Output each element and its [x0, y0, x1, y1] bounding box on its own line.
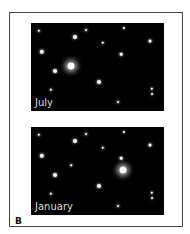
star-icon	[50, 193, 52, 195]
star-icon	[149, 144, 152, 147]
star-icon	[151, 197, 153, 199]
star-icon	[151, 192, 153, 194]
star-icon	[151, 88, 153, 90]
star-icon	[120, 167, 127, 174]
star-icon	[40, 154, 44, 158]
star-icon	[53, 69, 57, 73]
star-icon	[120, 53, 123, 56]
star-icon	[120, 157, 123, 160]
panel-label: July	[35, 98, 53, 108]
star-icon	[73, 35, 77, 39]
star-icon	[102, 42, 104, 44]
star-field-panel-january: January	[31, 127, 164, 215]
star-icon	[53, 173, 57, 177]
figure-letter: B	[15, 216, 22, 226]
star-icon	[97, 184, 101, 188]
star-icon	[117, 101, 119, 103]
star-icon	[97, 80, 101, 84]
star-icon	[151, 93, 153, 95]
star-icon	[38, 134, 40, 136]
star-icon	[85, 29, 87, 31]
star-icon	[123, 27, 125, 29]
star-icon	[50, 89, 52, 91]
star-icon	[117, 205, 119, 207]
star-icon	[85, 133, 87, 135]
star-icon	[40, 50, 44, 54]
star-icon	[68, 63, 75, 70]
star-field-panel-july: July	[31, 23, 164, 111]
star-icon	[123, 131, 125, 133]
panel-label: January	[35, 202, 73, 212]
star-icon	[38, 30, 40, 32]
star-icon	[70, 164, 72, 166]
star-icon	[73, 139, 77, 143]
star-icon	[149, 40, 152, 43]
star-icon	[102, 147, 104, 149]
